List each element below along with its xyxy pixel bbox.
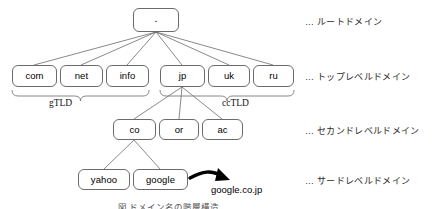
- brace-gtld: [12, 90, 149, 101]
- node-label: or: [175, 125, 184, 135]
- edge-jp-sld-0: [134, 87, 182, 119]
- node-root: .: [133, 8, 179, 32]
- node-sld-or: or: [159, 119, 199, 140]
- node-sld-co: co: [113, 119, 156, 140]
- fqdn-example-label: google.co.jp: [211, 184, 262, 195]
- edge-root-tld-4: [156, 32, 229, 65]
- node-label: google: [146, 175, 175, 185]
- node-tld-jp: jp: [160, 65, 205, 87]
- node-tld-com: com: [12, 65, 57, 87]
- edge-root-tld-0: [34, 32, 156, 65]
- node-sld-ac: ac: [202, 119, 243, 140]
- figure-caption: 図 ドメイン名の階層構造: [118, 200, 219, 209]
- fqdn-arrow: [190, 168, 230, 181]
- node-label: co: [129, 125, 139, 135]
- level-label-top-level-domain: … トップレベルドメイン: [305, 70, 410, 83]
- node-label: yahoo: [91, 175, 117, 185]
- edge-root-tld-1: [81, 32, 156, 65]
- brace-label-cctld: ccTLD: [222, 98, 249, 108]
- level-label-third-level-domain: … サードレベルドメイン: [305, 174, 410, 187]
- edge-co-3ld-0: [104, 140, 134, 169]
- edge-root-tld-5: [156, 32, 273, 65]
- node-tld-net: net: [60, 65, 103, 87]
- node-label: jp: [179, 71, 187, 81]
- edge-jp-sld-2: [182, 87, 222, 119]
- level-label-root-domain: … ルートドメイン: [305, 15, 382, 28]
- node-tld-info: info: [106, 65, 149, 87]
- dns-hierarchy-figure: .comnetinfojpukrucooracyahoogoogle gTLDc…: [0, 0, 435, 209]
- node-tld-ru: ru: [253, 65, 294, 87]
- edge-jp-sld-1: [179, 87, 182, 119]
- node-label: .: [154, 13, 157, 24]
- node-label: ac: [217, 125, 227, 135]
- node-3ld-google: google: [133, 169, 188, 190]
- level-label-second-level-domain: … セカンドレベルドメイン: [305, 124, 419, 137]
- node-label: ru: [269, 71, 278, 81]
- edge-root-tld-2: [127, 32, 156, 65]
- node-tld-uk: uk: [208, 65, 250, 87]
- edge-root-tld-3: [156, 32, 182, 65]
- node-3ld-yahoo: yahoo: [78, 169, 130, 190]
- edge-co-3ld-1: [134, 140, 160, 169]
- node-label: info: [120, 71, 136, 81]
- node-label: com: [25, 71, 43, 81]
- node-label: net: [75, 71, 89, 81]
- node-label: uk: [224, 71, 234, 81]
- brace-label-gtld: gTLD: [49, 98, 72, 108]
